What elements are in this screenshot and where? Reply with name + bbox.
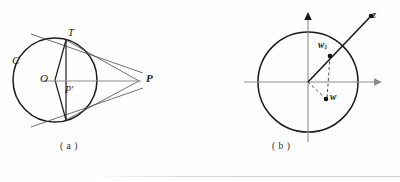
segment-t-p	[66, 40, 139, 81]
label-point-w1: w1	[318, 41, 327, 51]
tangent-line-upper	[31, 34, 143, 73]
tangent-line-lower	[31, 88, 143, 127]
label-point-w: w	[330, 93, 336, 103]
bottom-divider	[90, 176, 400, 177]
point-w1-marker	[328, 54, 333, 59]
panel-a-geometry	[13, 34, 143, 127]
figure-canvas: C T O P′ P z w1 w ( a ) ( b )	[0, 0, 400, 182]
label-point-z: z	[372, 10, 376, 20]
figure-vector-layer	[0, 0, 400, 182]
segment-t-lower-p	[66, 81, 139, 120]
label-w1-subscript: 1	[324, 44, 327, 50]
dashed-origin-to-w	[308, 82, 326, 99]
panel-b-geometry	[244, 12, 382, 142]
label-tangent-point-t: T	[68, 28, 74, 39]
label-external-point-p: P	[146, 73, 153, 84]
label-inverse-point-p-prime: P′	[65, 85, 73, 95]
y-axis-arrowhead	[304, 12, 312, 20]
label-circle-c: C	[12, 55, 19, 66]
x-axis-arrowhead	[374, 78, 382, 86]
label-center-o: O	[40, 73, 48, 84]
caption-panel-b: ( b )	[272, 141, 290, 151]
caption-panel-a: ( a )	[60, 141, 78, 151]
segment-o-t	[55, 40, 66, 80]
point-w-marker	[324, 97, 329, 102]
